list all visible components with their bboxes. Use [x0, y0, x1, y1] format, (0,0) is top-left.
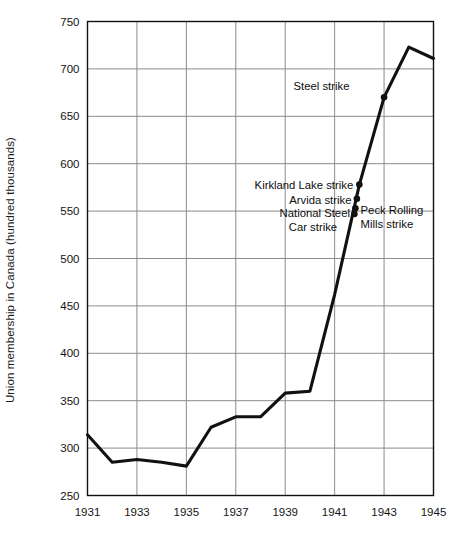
- y-tick-label: 600: [60, 158, 79, 170]
- annotation-label: National Steel: [280, 207, 350, 219]
- y-axis-tick-labels: 250300350400450500550600650700750: [60, 16, 79, 502]
- annotation-label: Arvida strike: [289, 194, 351, 206]
- event-marker: [381, 94, 388, 101]
- y-tick-label: 400: [60, 347, 79, 359]
- strike-annotations: Steel strikeKirkland Lake strikeArvida s…: [255, 80, 424, 233]
- x-tick-label: 1939: [272, 506, 298, 518]
- y-tick-label: 350: [60, 395, 79, 407]
- annotation-label: Peck Rolling: [361, 204, 424, 216]
- event-marker: [356, 181, 363, 188]
- plot-area-wrapper: 250300350400450500550600650700750 193119…: [0, 0, 464, 540]
- x-tick-label: 1937: [223, 506, 249, 518]
- annotation-label: Kirkland Lake strike: [255, 179, 354, 191]
- series-line: [88, 47, 434, 466]
- chart-container: Union membership in Canada (hundred thou…: [0, 0, 464, 540]
- y-tick-label: 250: [60, 490, 79, 502]
- y-tick-label: 500: [60, 253, 79, 265]
- annotation-label: Steel strike: [294, 80, 350, 92]
- y-tick-label: 550: [60, 205, 79, 217]
- x-axis-tick-labels: 19311933193519371939194119431945: [75, 506, 447, 518]
- x-tick-label: 1935: [174, 506, 200, 518]
- strike-event-markers: [351, 94, 387, 217]
- annotation-label: Car strike: [289, 221, 337, 233]
- x-tick-label: 1945: [421, 506, 447, 518]
- x-tick-label: 1933: [124, 506, 150, 518]
- event-marker: [351, 211, 358, 218]
- y-tick-label: 750: [60, 16, 79, 28]
- x-tick-label: 1941: [322, 506, 348, 518]
- data-line-series: [88, 47, 434, 466]
- y-tick-label: 450: [60, 300, 79, 312]
- horizontal-gridlines: [88, 69, 434, 448]
- annotation-label: Mills strike: [361, 218, 414, 230]
- x-tick-label: 1931: [75, 506, 101, 518]
- y-tick-label: 300: [60, 442, 79, 454]
- y-tick-label: 700: [60, 63, 79, 75]
- line-chart-svg: 250300350400450500550600650700750 193119…: [0, 0, 464, 540]
- x-tick-label: 1943: [371, 506, 397, 518]
- event-marker: [352, 205, 359, 212]
- y-tick-label: 650: [60, 110, 79, 122]
- event-marker: [354, 195, 361, 202]
